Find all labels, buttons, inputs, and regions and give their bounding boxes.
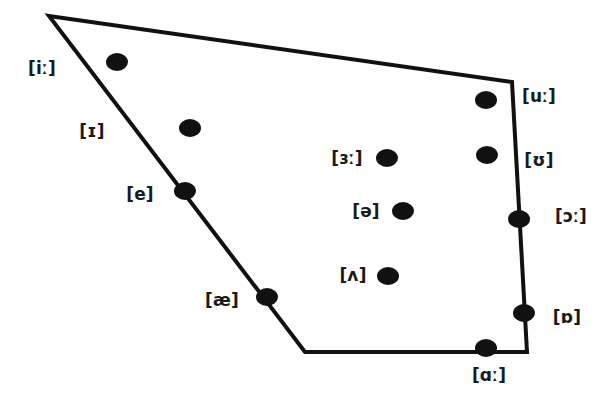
vowel-label: [ʊ]	[524, 152, 553, 169]
vowel-label: [ə]	[352, 203, 380, 220]
vowel-label: [ʌ]	[339, 267, 366, 284]
vowel-label: [ɔː]	[555, 208, 587, 225]
vowel-dot	[377, 267, 399, 285]
vowel-label: [æ]	[205, 292, 239, 309]
vowel-dot	[508, 210, 530, 228]
vowel-dot	[475, 339, 497, 357]
vowel-chart: [iː][ɪ][e][æ][ɜː][ə][ʌ][uː][ʊ][ɔː][ɒ][ɑː…	[0, 0, 607, 412]
vowel-dot	[475, 91, 497, 109]
vowel-label: [ɜː]	[331, 150, 362, 167]
vowel-quadrilateral-svg	[0, 0, 607, 412]
vowel-dot	[106, 53, 128, 71]
vowel-label: [e]	[126, 186, 154, 203]
vowel-label: [uː]	[522, 88, 556, 105]
vowel-dot	[179, 119, 201, 137]
vowel-dot	[174, 182, 196, 200]
vowel-dot	[256, 288, 278, 306]
vowel-dot	[376, 149, 398, 167]
vowel-label: [ɪ]	[79, 123, 104, 140]
vowel-dot	[513, 304, 535, 322]
vowel-label: [ɒ]	[553, 309, 581, 326]
vowel-dot	[392, 202, 414, 220]
vowel-dot	[476, 146, 498, 164]
vowel-label: [ɑː]	[472, 367, 506, 384]
vowel-label: [iː]	[28, 60, 56, 77]
